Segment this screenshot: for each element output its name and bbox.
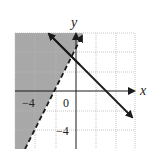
x-axis-label: x [139,83,147,98]
inequality-graph: x y −4 0 −4 [0,0,153,149]
tick-label-y-neg4: −4 [56,124,69,138]
y-axis-label: y [69,15,78,30]
tick-label-x-neg4: −4 [22,96,35,110]
tick-label-zero: 0 [63,96,69,110]
